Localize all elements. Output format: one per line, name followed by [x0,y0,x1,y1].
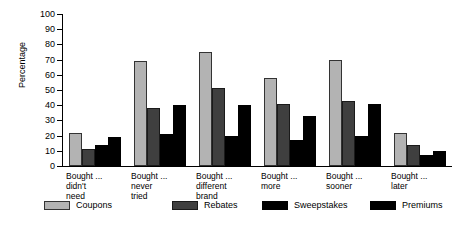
bar-premiums-3 [238,105,251,166]
x-category-label-2: Bought ... never tried [131,171,202,201]
chart-legend: CouponsRebatesSweepstakesPremiums [0,200,470,222]
bar-coupons-5 [329,60,342,166]
y-tick-label: 40 [25,100,55,110]
bar-premiums-1 [108,137,121,166]
bar-coupons-2 [134,61,147,166]
legend-label-coupons: Coupons [76,200,112,210]
legend-label-sweepstakes: Sweepstakes [294,200,348,210]
x-category-label-5: Bought ... sooner [326,171,397,191]
x-category-label-1: Bought ... didn't need [66,171,137,201]
bar-rebates-6 [407,145,420,166]
y-tick-label: 0 [25,161,55,171]
y-tick-mark [57,166,62,167]
bar-group [127,14,192,166]
bar-premiums-6 [433,151,446,166]
bar-rebates-3 [212,88,225,166]
bar-premiums-5 [368,104,381,166]
bar-group [62,14,127,166]
legend-label-premiums: Premiums [402,200,443,210]
bar-sweepstakes-2 [160,134,173,166]
legend-swatch-rebates [172,201,198,210]
legend-item-sweepstakes[interactable]: Sweepstakes [262,200,348,210]
y-tick-label: 90 [25,24,55,34]
bar-sweepstakes-5 [355,136,368,166]
bar-rebates-4 [277,104,290,166]
x-category-label-6: Bought ... later [391,171,462,191]
y-tick-label: 30 [25,115,55,125]
bar-sweepstakes-1 [95,145,108,166]
legend-item-rebates[interactable]: Rebates [172,200,238,210]
bar-sweepstakes-4 [290,140,303,166]
x-category-label-4: Bought ... more [261,171,332,191]
bar-rebates-5 [342,101,355,166]
bar-premiums-2 [173,105,186,166]
bar-group [192,14,257,166]
y-tick-label: 80 [25,39,55,49]
y-tick-label: 10 [25,146,55,156]
y-tick-label: 100 [25,9,55,19]
legend-label-rebates: Rebates [204,200,238,210]
bar-group [257,14,322,166]
x-category-label-3: Bought ... different brand [196,171,267,201]
bar-rebates-1 [82,149,95,166]
plot-area: 0102030405060708090100 Bought ... didn't… [62,14,452,166]
bar-sweepstakes-6 [420,155,433,166]
y-tick-label: 20 [25,131,55,141]
bar-coupons-6 [394,133,407,166]
bar-chart: Percentage 0102030405060708090100 Bought… [0,0,470,231]
bar-premiums-4 [303,116,316,166]
legend-swatch-sweepstakes [262,201,288,210]
y-tick-label: 70 [25,55,55,65]
bar-coupons-3 [199,52,212,166]
legend-swatch-premiums [370,201,396,210]
legend-item-coupons[interactable]: Coupons [44,200,112,210]
bar-coupons-1 [69,133,82,166]
y-tick-label: 50 [25,85,55,95]
x-axis-line [62,166,452,167]
bar-group [387,14,452,166]
bar-group [322,14,387,166]
bar-sweepstakes-3 [225,136,238,166]
y-tick-label: 60 [25,70,55,80]
bar-rebates-2 [147,108,160,166]
legend-item-premiums[interactable]: Premiums [370,200,443,210]
legend-swatch-coupons [44,201,70,210]
bar-coupons-4 [264,78,277,166]
